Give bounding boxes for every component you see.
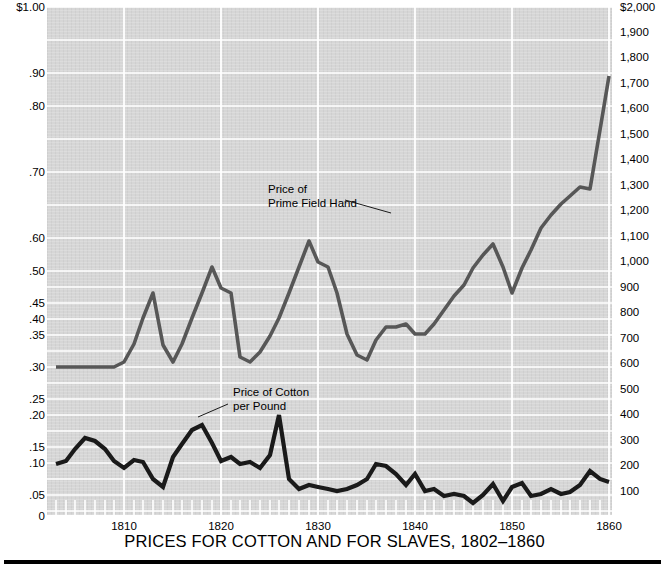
annotation-prime-field-hand-line2: Prime Field Hand	[268, 196, 357, 210]
y-right-tick-10: 1,100	[620, 231, 649, 243]
y-right-tick-13: 800	[620, 307, 639, 319]
chart-caption: PRICES FOR COTTON AND FOR SLAVES, 1802–1…	[0, 532, 669, 551]
y-left-tick-10: .30	[29, 362, 45, 374]
series-cotton-price	[56, 415, 609, 503]
y-right-tick-18: 300	[620, 435, 639, 447]
y-left-tick-1: $1.00	[16, 2, 45, 14]
x-tick-1860: 1860	[596, 521, 622, 533]
y-left-tick-15: .05	[29, 490, 45, 502]
y-right-tick-6: 1,500	[620, 129, 649, 141]
y-left-tick-13: .15	[29, 442, 45, 454]
annotation-cotton-price-line2: per Pound	[233, 399, 309, 413]
y-right-tick-3: 1,800	[620, 52, 649, 64]
y-left-tick-2: .90	[29, 68, 45, 80]
y-left-tick-4: .70	[29, 167, 45, 179]
y-right-tick-1: $2,000	[620, 2, 655, 14]
y-right-tick-14: 700	[620, 333, 639, 345]
y-left-tick-14: .10	[29, 458, 45, 470]
y-left-tick-3: .80	[29, 101, 45, 113]
chart-canvas	[0, 0, 669, 571]
annotation-cotton-price: Price of Cotton per Pound	[233, 385, 309, 414]
y-left-tick-9: .35	[29, 330, 45, 342]
annual-tick-marks	[56, 500, 600, 515]
y-right-tick-5: 1,600	[620, 103, 649, 115]
x-tick-1850: 1850	[499, 521, 525, 533]
caption-rule	[4, 560, 661, 564]
y-right-tick-2: 1,900	[620, 27, 649, 39]
y-right-tick-16: 500	[620, 384, 639, 396]
annotation-cotton-price-line1: Price of Cotton	[233, 385, 309, 399]
y-left-tick-12: .20	[29, 410, 45, 422]
y-right-tick-8: 1,300	[620, 180, 649, 192]
y-right-tick-4: 1,700	[620, 78, 649, 90]
annotation-prime-field-hand: Price of Prime Field Hand	[268, 182, 357, 211]
x-tick-1810: 1810	[111, 521, 137, 533]
annotation-prime-field-hand-line1: Price of	[268, 182, 357, 196]
y-right-tick-11: 1,000	[620, 256, 649, 268]
y-right-tick-19: 200	[620, 460, 639, 472]
y-right-tick-9: 1,200	[620, 205, 649, 217]
x-tick-1840: 1840	[402, 521, 428, 533]
y-left-tick-7: .45	[29, 298, 45, 310]
vertical-gridlines	[124, 7, 609, 515]
y-left-tick-5: .60	[29, 233, 45, 245]
x-tick-1820: 1820	[208, 521, 234, 533]
y-right-tick-20: 100	[620, 486, 639, 498]
y-right-tick-15: 600	[620, 358, 639, 370]
y-left-tick-8: .40	[29, 314, 45, 326]
chart-figure: $1.00 .90 .80 .70 .60 .50 .45 .40 .35 .3…	[0, 0, 669, 571]
y-left-tick-6: .50	[29, 266, 45, 278]
y-right-tick-17: 400	[620, 409, 639, 421]
x-tick-1830: 1830	[305, 521, 331, 533]
y-right-tick-7: 1,400	[620, 154, 649, 166]
y-left-tick-16: 0	[39, 511, 45, 523]
y-left-tick-11: .25	[29, 394, 45, 406]
y-right-tick-12: 900	[620, 282, 639, 294]
series-prime-field-hand	[56, 76, 609, 367]
